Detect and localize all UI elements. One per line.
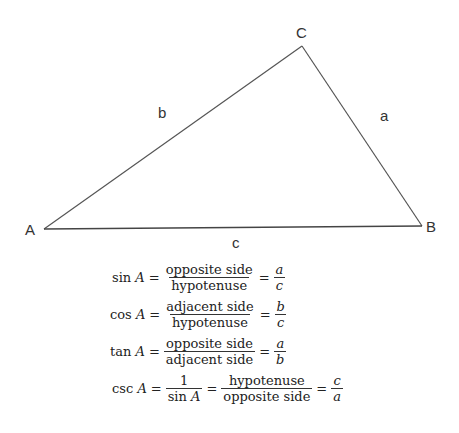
side-fraction: b c xyxy=(275,299,287,330)
side-a-label: a xyxy=(380,107,389,124)
side-b-label: b xyxy=(158,104,166,121)
side-c-label: c xyxy=(232,234,240,251)
ratio-fraction: opposite side hypotenuse xyxy=(164,262,255,293)
formula-cos: cos A = adjacent side hypotenuse = b c xyxy=(110,295,287,333)
side-fraction: a b xyxy=(274,336,286,367)
side-c-line xyxy=(44,226,422,229)
ratio-fraction: hypotenuse opposite side xyxy=(221,373,312,404)
equals-sign: = xyxy=(260,307,271,322)
equals-sign: = xyxy=(259,270,270,285)
triangle-diagram: A B C b a c xyxy=(0,0,459,260)
reciprocal-fraction: 1 sin A xyxy=(166,373,203,404)
side-fraction: c a xyxy=(331,373,343,404)
side-b-line xyxy=(44,46,302,229)
formula-lhs: cos A xyxy=(110,307,145,322)
vertex-a-label: A xyxy=(25,221,35,238)
ratio-fraction: adjacent side hypotenuse xyxy=(164,299,255,330)
equals-sign: = xyxy=(206,381,217,396)
equals-sign: = xyxy=(316,381,327,396)
side-a-line xyxy=(302,46,422,226)
side-fraction: a c xyxy=(274,262,286,293)
equals-sign: = xyxy=(149,344,160,359)
formula-lhs: tan A xyxy=(110,344,145,359)
formula-lhs: sin A xyxy=(112,270,145,285)
vertex-c-label: C xyxy=(296,24,307,41)
formula-lhs: csc A xyxy=(112,381,147,396)
formula-csc: csc A = 1 sin A = hypotenuse opposite si… xyxy=(112,369,343,407)
formula-sin: sin A = opposite side hypotenuse = a c xyxy=(112,258,285,296)
vertex-b-label: B xyxy=(426,218,436,235)
ratio-fraction: opposite side adjacent side xyxy=(164,336,255,367)
equals-sign: = xyxy=(149,307,160,322)
equals-sign: = xyxy=(149,270,160,285)
equals-sign: = xyxy=(151,381,162,396)
formula-tan: tan A = opposite side adjacent side = a … xyxy=(110,332,286,370)
equals-sign: = xyxy=(259,344,270,359)
